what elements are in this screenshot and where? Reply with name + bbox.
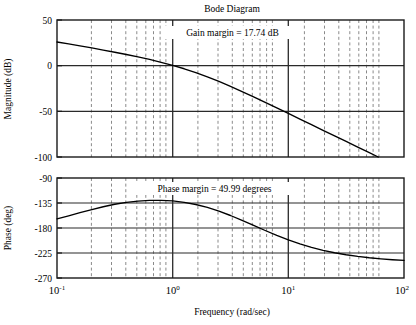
chart-title: Bode Diagram bbox=[204, 4, 260, 14]
xtick-mantissa-1: 10 bbox=[166, 285, 177, 296]
magnitude-ytick-label-2: -50 bbox=[39, 107, 52, 117]
magnitude-horizontal-gridlines bbox=[57, 66, 404, 112]
xtick-label-1: 100 bbox=[166, 284, 181, 296]
phase-ytick-label-3: -225 bbox=[35, 249, 53, 259]
xtick-mantissa-2: 10 bbox=[281, 285, 292, 296]
bode-diagram-figure: Bode Diagram Magnitude (dB) Phase (deg) bbox=[0, 0, 416, 325]
phase-margin-text: Phase margin = 49.99 degrees bbox=[157, 184, 271, 194]
phase-axis-label: Phase (deg) bbox=[3, 206, 14, 251]
magnitude-major-gridlines bbox=[173, 20, 289, 157]
phase-margin-annotation: Phase margin = 49.99 degrees bbox=[127, 182, 302, 195]
gain-margin-text: Gain margin = 17.74 dB bbox=[186, 28, 279, 38]
xtick-mantissa-0: 10 bbox=[49, 285, 60, 296]
phase-subplot: -90 -135 -180 -225 -270 Phase margin = 4… bbox=[35, 174, 404, 284]
bode-chart-svg: Bode Diagram Magnitude (dB) Phase (deg) bbox=[0, 0, 416, 325]
gain-margin-annotation: Gain margin = 17.74 dB bbox=[163, 26, 302, 39]
xtick-exponent-0: -1 bbox=[59, 284, 65, 292]
phase-horizontal-gridlines bbox=[57, 203, 404, 253]
xtick-exponent-3: 2 bbox=[406, 284, 410, 292]
magnitude-ytick-label-1: 0 bbox=[47, 61, 52, 71]
xtick-mantissa-3: 10 bbox=[395, 285, 406, 296]
xtick-exponent-1: 0 bbox=[176, 284, 180, 292]
magnitude-ytick-label-0: 50 bbox=[43, 16, 53, 26]
xtick-label-2: 101 bbox=[281, 284, 296, 296]
magnitude-subplot: 50 0 -50 -100 Gain margin = 17.74 dB bbox=[35, 16, 404, 163]
phase-ytick-label-1: -135 bbox=[35, 199, 53, 209]
xtick-exponent-2: 1 bbox=[292, 284, 296, 292]
magnitude-axis-label: Magnitude (dB) bbox=[3, 59, 14, 120]
phase-tick-marks bbox=[57, 178, 62, 278]
phase-ytick-label-4: -270 bbox=[35, 274, 53, 284]
phase-response-curve bbox=[57, 200, 404, 260]
magnitude-ytick-label-3: -100 bbox=[35, 153, 53, 163]
phase-ytick-label-0: -90 bbox=[39, 174, 52, 184]
x-tick-labels: 10-1 100 101 102 bbox=[49, 284, 410, 296]
xtick-label-3: 102 bbox=[395, 284, 410, 296]
magnitude-plot-frame bbox=[57, 20, 404, 157]
phase-ytick-label-2: -180 bbox=[35, 224, 53, 234]
xtick-label-0: 10-1 bbox=[49, 284, 66, 296]
frequency-axis-label: Frequency (rad/sec) bbox=[194, 307, 270, 318]
magnitude-tick-marks bbox=[57, 20, 62, 157]
